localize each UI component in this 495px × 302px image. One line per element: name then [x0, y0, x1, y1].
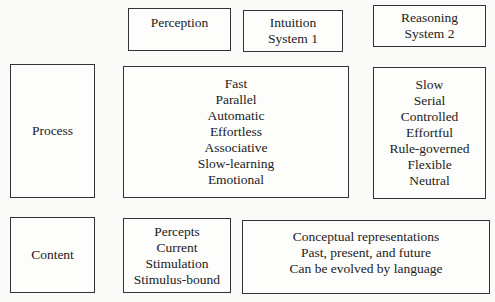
content-intuition-reasoning-cell: Conceptual representations Past, present… — [242, 220, 490, 294]
process-item: Fast — [225, 76, 248, 92]
content-item: Stimulus-bound — [134, 272, 220, 288]
process-item: Associative — [205, 140, 268, 156]
process-item: Slow — [416, 77, 444, 93]
row-label-content: Content — [10, 217, 95, 293]
content-item: Conceptual representations — [293, 229, 440, 245]
process-item: Effortless — [210, 124, 262, 140]
process-item: Effortful — [406, 125, 453, 141]
header-reasoning-system2: Reasoning System 2 — [373, 5, 486, 47]
process-item: Controlled — [401, 109, 459, 125]
header-intuition-line2: System 1 — [268, 31, 318, 47]
content-item: Current — [156, 240, 197, 256]
content-item: Stimulation — [145, 256, 208, 272]
content-item: Can be evolved by language — [290, 261, 443, 277]
header-intuition-line1: Intuition — [270, 15, 317, 31]
content-item: Percepts — [154, 224, 200, 240]
process-item: Neutral — [409, 173, 449, 189]
row-label-process: Process — [10, 64, 95, 198]
content-item: Past, present, and future — [301, 245, 431, 261]
header-perception: Perception — [128, 8, 231, 51]
process-item: Automatic — [208, 108, 265, 124]
header-reasoning-line1: Reasoning — [401, 10, 458, 26]
header-perception-line: Perception — [151, 15, 209, 31]
process-label: Process — [32, 123, 73, 139]
content-label: Content — [31, 247, 74, 263]
process-item: Emotional — [208, 172, 264, 188]
content-perception-cell: Percepts Current Stimulation Stimulus-bo… — [123, 218, 231, 293]
process-reasoning-cell: Slow Serial Controlled Effortful Rule-go… — [373, 67, 486, 199]
header-reasoning-line2: System 2 — [405, 26, 455, 42]
process-intuition-perception-cell: Fast Parallel Automatic Effortless Assoc… — [123, 66, 349, 198]
process-item: Rule-governed — [389, 141, 469, 157]
process-item: Slow-learning — [198, 156, 275, 172]
process-item: Flexible — [407, 157, 451, 173]
header-intuition-system1: Intuition System 1 — [243, 10, 343, 52]
process-item: Parallel — [215, 92, 256, 108]
process-item: Serial — [414, 93, 446, 109]
